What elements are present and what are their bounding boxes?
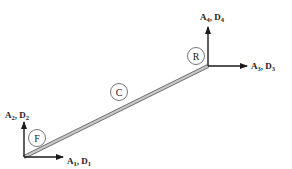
dof-label-a3-d3: A3, D3 bbox=[251, 61, 276, 72]
node-front-label: F bbox=[34, 133, 40, 144]
node-center-label: C bbox=[116, 87, 123, 98]
beam-diagram: F C R A2, D2 A1, D1 A4, D4 A3, D3 bbox=[0, 0, 292, 169]
node-front: F bbox=[29, 130, 46, 147]
dof-label-a1-d1: A1, D1 bbox=[67, 156, 91, 167]
rear-node-axes bbox=[208, 27, 247, 66]
node-center: C bbox=[111, 84, 128, 101]
node-rear-label: R bbox=[193, 51, 200, 62]
dof-label-a4-d4: A4, D4 bbox=[200, 12, 225, 23]
node-rear: R bbox=[188, 48, 205, 65]
beam-element bbox=[24, 66, 208, 157]
dof-label-a2-d2: A2, D2 bbox=[5, 110, 29, 121]
